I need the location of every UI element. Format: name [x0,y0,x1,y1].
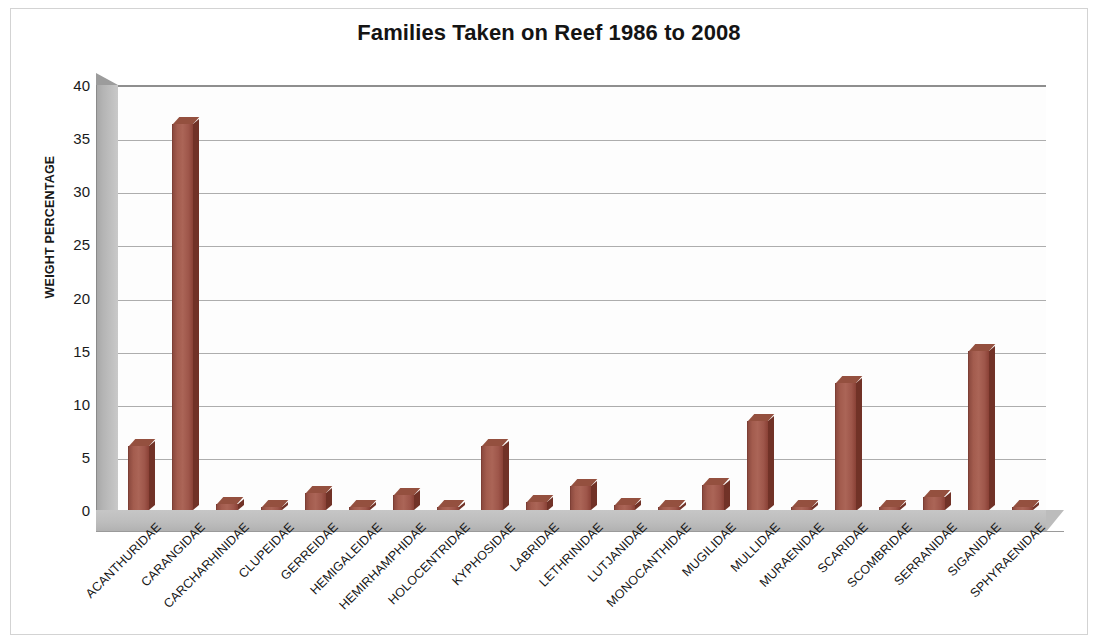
bar-slot [614,85,634,510]
bar-hemirhamphidae[interactable] [393,495,414,510]
chart-figure: Families Taken on Reef 1986 to 2008 WEIG… [0,0,1098,643]
bar-slot [835,85,855,510]
y-tick-label: 5 [42,448,90,465]
chart-title: Families Taken on Reef 1986 to 2008 [0,20,1098,46]
y-tick-label: 30 [42,183,90,200]
bar-siganidae[interactable] [968,351,989,510]
bar-slot [879,85,899,510]
bar-side-face [724,479,730,510]
y-tick-label: 15 [42,342,90,359]
bar-gerreidae[interactable] [305,493,326,510]
bar-slot [305,85,325,510]
bar-slot [216,85,236,510]
x-tick-label: SPHYRAENIDAE [967,520,1047,600]
bar-side-face [149,441,155,510]
bar-labridae[interactable] [526,502,547,511]
bar-side-face [326,488,332,510]
x-tick-label: MONOCANTHIDAE [604,520,694,610]
x-tick-label: ACANTHURIDAE [83,520,164,601]
bar-side-face [591,481,597,510]
bar-lethrinidae[interactable] [570,486,591,510]
plot-area [96,85,1046,535]
bar-side-face [989,346,995,510]
bar-side-face [945,492,951,510]
bar-slot [702,85,722,510]
bar-slot [481,85,501,510]
bar-slot [349,85,369,510]
bar-slot [968,85,988,510]
bar-slot [437,85,457,510]
bar-acanthuridae[interactable] [128,446,149,510]
bar-side-face [503,441,509,510]
x-tick-label: HOLOCENTRIDAE [386,520,473,607]
y-tick-label: 40 [42,77,90,94]
bar-slot [747,85,767,510]
bar-serranidae[interactable] [923,497,944,510]
bar-slot [658,85,678,510]
bar-scaridae[interactable] [835,383,856,511]
y-axis-tick-labels: 0510152025303540 [42,80,90,510]
bar-slot [172,85,192,510]
bar-kyphosidae[interactable] [481,446,502,510]
left-wall [96,85,118,510]
bars-layer [118,85,1046,510]
bar-slot [526,85,546,510]
bar-slot [1012,85,1032,510]
left-wall-top-bevel [96,73,118,85]
bar-slot [393,85,413,510]
bar-slot [570,85,590,510]
y-tick-label: 0 [42,502,90,519]
bar-side-face [193,119,199,510]
bar-side-face [414,490,420,510]
y-tick-label: 25 [42,236,90,253]
bar-side-face [856,377,862,510]
x-tick-label: CARCHARHINIDAE [161,520,252,611]
bar-slot [128,85,148,510]
x-axis-category-labels: ACANTHURIDAECARANGIDAECARCHARHINIDAECLUP… [96,520,1056,640]
bar-mugilidae[interactable] [702,485,723,511]
bar-side-face [768,416,774,510]
y-tick-label: 35 [42,130,90,147]
y-tick-label: 10 [42,395,90,412]
bar-slot [791,85,811,510]
bar-slot [261,85,281,510]
bar-carangidae[interactable] [172,124,193,510]
bar-slot [923,85,943,510]
bar-mullidae[interactable] [747,421,768,510]
y-tick-label: 20 [42,289,90,306]
